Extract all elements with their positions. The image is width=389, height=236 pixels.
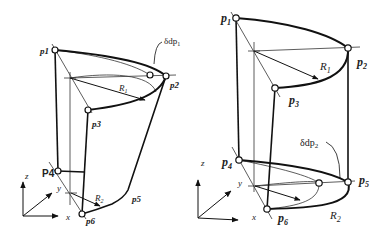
left-point-p2 [163, 73, 169, 79]
left-points [52, 47, 169, 217]
z-axis-label: z [24, 171, 29, 181]
right-label-p1: p1 [220, 11, 231, 27]
right-point-p2 [345, 45, 351, 51]
right-edges [236, 18, 348, 209]
left-label-p5: p5 [131, 194, 142, 204]
right-label-p2: p2 [356, 55, 367, 71]
right-point-inner [316, 180, 322, 186]
right-top-arc [236, 18, 348, 88]
z-axis-label: z [200, 158, 205, 168]
right-label-p6: p6 [277, 211, 288, 227]
x-axis-label: x [65, 212, 70, 222]
right-bottom-arc [239, 160, 349, 209]
right-figure: z y x [198, 11, 369, 227]
x-axis-arrow [198, 218, 238, 220]
left-top-arc [55, 50, 166, 110]
right-r2-arrow [255, 186, 300, 200]
left-label-p3: p3 [91, 119, 102, 129]
right-point-p4 [236, 157, 242, 163]
right-deviation-label: δdp2 [300, 137, 319, 150]
x-axis-label: x [251, 212, 256, 222]
right-point-p5 [345, 179, 351, 185]
left-axis-triad [23, 182, 58, 216]
y-axis-arrow [23, 193, 52, 216]
right-deviation-leader [326, 142, 340, 178]
left-point-p1 [52, 47, 58, 53]
right-label-p5: p5 [358, 173, 369, 189]
right-r2-label: R2 [329, 209, 341, 224]
left-deviation-label: δdp1 [164, 36, 180, 47]
left-label-p6: p6 [85, 216, 96, 226]
y-axis-label: y [237, 178, 242, 188]
y-axis-arrow [198, 191, 231, 218]
left-r1-arrow [70, 78, 145, 100]
left-point-p6 [79, 211, 85, 217]
left-label-p2: p2 [169, 80, 180, 90]
y-axis-label: y [56, 183, 61, 193]
left-figure: z y x R1 R2 [23, 36, 180, 226]
left-label-p1: p1 [39, 46, 49, 56]
left-label-p4: P4 [42, 168, 55, 179]
diagram-canvas: z y x R1 R2 [0, 0, 389, 236]
right-point-p1 [233, 15, 239, 21]
left-r2-label: R2 [94, 193, 104, 204]
left-point-p4 [55, 168, 61, 174]
right-point-p3 [272, 85, 278, 91]
right-label-p4: p4 [221, 155, 232, 171]
right-label-p3: p3 [288, 93, 299, 109]
left-point-p3 [85, 107, 91, 113]
right-r1-arrow [254, 51, 318, 79]
right-r1-label: R1 [319, 60, 331, 75]
left-deviation-leader [154, 42, 162, 64]
right-point-p6 [264, 206, 270, 212]
right-axis-triad [198, 180, 238, 220]
left-point-inner [147, 72, 153, 78]
left-r1-label: R1 [118, 83, 128, 94]
